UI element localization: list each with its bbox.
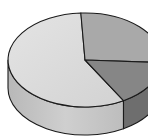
pie-chart-3d: [0, 0, 148, 139]
pie-chart-canvas: [0, 0, 148, 139]
pie-tops: [8, 13, 148, 107]
pie-slice-top: [81, 13, 148, 62]
